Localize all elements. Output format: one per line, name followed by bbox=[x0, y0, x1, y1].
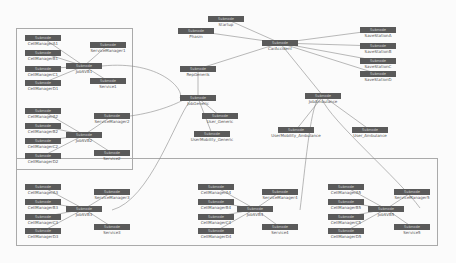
node-user_generic[interactable]: SubnodeUser_Generic bbox=[202, 113, 238, 124]
node-label: Startup bbox=[219, 22, 234, 27]
node-cm_c5[interactable]: SubnodeCellManagerC5 bbox=[328, 214, 364, 225]
node-label: User_Generic bbox=[207, 119, 234, 124]
node-label: CellManagerB4 bbox=[201, 205, 231, 210]
node-cm_a3[interactable]: SubnodeCellManagerA3 bbox=[25, 184, 61, 195]
node-jobgeneric[interactable]: SubnodeJobGeneric bbox=[180, 95, 216, 106]
node-cm_c2[interactable]: SubnodeCellManagerC2 bbox=[25, 138, 61, 149]
node-ss_b[interactable]: SubnodeSaveStationB bbox=[360, 43, 396, 54]
node-cm_a4[interactable]: SubnodeCellManagerA4 bbox=[198, 184, 234, 195]
node-cm_b5[interactable]: SubnodeCellManagerB5 bbox=[328, 199, 364, 210]
node-label: JobGeneric bbox=[187, 101, 209, 106]
node-label: CellManagerD5 bbox=[331, 234, 362, 239]
node-label: ServiceManager4 bbox=[263, 195, 298, 200]
node-label: UserMobility_Generic bbox=[191, 137, 233, 142]
node-user_amb[interactable]: SubnodeUser_Ambulance bbox=[352, 127, 388, 138]
node-service5[interactable]: SubnodeService5 bbox=[394, 224, 430, 235]
node-label: RepGenerik bbox=[186, 72, 209, 77]
node-cm_c1[interactable]: SubnodeCellManagerC1 bbox=[25, 66, 61, 77]
node-servmgr3[interactable]: SubnodeServiceManager3 bbox=[94, 189, 130, 200]
node-label: CellManagerA4 bbox=[201, 190, 231, 195]
node-ss_a[interactable]: SubnodeSaveStationA bbox=[360, 27, 396, 38]
node-label: CellManagerC5 bbox=[331, 220, 361, 225]
node-ss_d[interactable]: SubnodeSaveStationD bbox=[360, 71, 396, 82]
node-label: CellManagerA3 bbox=[28, 190, 58, 195]
node-servmgr2[interactable]: SubnodeServiceManager2 bbox=[94, 113, 130, 124]
node-jobsvb4[interactable]: SubnodeJobSVB4 bbox=[237, 206, 273, 217]
edge-curve bbox=[300, 99, 318, 210]
node-cm_a5[interactable]: SubnodeCellManagerA5 bbox=[328, 184, 364, 195]
node-label: CellManagerB5 bbox=[331, 205, 361, 210]
diagram-canvas: SubnodePhasmSubnodeStartupSubnodeCarAcci… bbox=[0, 0, 456, 263]
node-label: CellManagerA5 bbox=[331, 190, 361, 195]
node-label: CellManagerD4 bbox=[201, 234, 232, 239]
node-label: ServiceManager1 bbox=[91, 48, 126, 53]
node-cm_a2[interactable]: SubnodeCellManagerA2 bbox=[25, 108, 61, 119]
node-label: SaveStationB bbox=[365, 49, 392, 54]
node-label: JobSVB2 bbox=[76, 138, 93, 143]
node-cm_d2[interactable]: SubnodeCellManagerD2 bbox=[25, 153, 61, 164]
node-label: CellManagerB3 bbox=[28, 205, 58, 210]
node-label: CellManagerC1 bbox=[28, 72, 58, 77]
node-label: CellManagerD3 bbox=[28, 234, 59, 239]
node-jobsvb3[interactable]: SubnodeJobSVB3 bbox=[66, 206, 102, 217]
node-cm_d4[interactable]: SubnodeCellManagerD4 bbox=[198, 228, 234, 239]
node-label: CellManagerB2 bbox=[28, 129, 58, 134]
node-label: Service3 bbox=[103, 230, 120, 235]
node-usermob_amb[interactable]: SubnodeUserMobility_Ambulance bbox=[278, 127, 314, 138]
node-jobambulance[interactable]: SubnodeJobAmbulance bbox=[305, 93, 341, 104]
node-jobsvb1[interactable]: SubnodeJobSVB1 bbox=[66, 63, 102, 74]
node-cm_c4[interactable]: SubnodeCellManagerC4 bbox=[198, 214, 234, 225]
node-service3[interactable]: SubnodeService3 bbox=[94, 224, 130, 235]
node-cm_b4[interactable]: SubnodeCellManagerB4 bbox=[198, 199, 234, 210]
node-servmgr5[interactable]: SubnodeServiceManager5 bbox=[394, 189, 430, 200]
node-startup[interactable]: SubnodeStartup bbox=[208, 16, 244, 27]
node-label: ServiceManager2 bbox=[95, 119, 130, 124]
node-cm_b2[interactable]: SubnodeCellManagerB2 bbox=[25, 123, 61, 134]
edge-curve bbox=[130, 99, 185, 116]
node-cm_a1[interactable]: SubnodeCellManagerA1 bbox=[25, 35, 61, 46]
node-label: ServiceManager5 bbox=[395, 195, 430, 200]
node-label: CellManagerC3 bbox=[28, 220, 58, 225]
node-repgenerisch[interactable]: SubnodeRepGenerik bbox=[180, 66, 216, 77]
node-cm_d1[interactable]: SubnodeCellManagerD1 bbox=[25, 80, 61, 91]
node-label: ServiceManager3 bbox=[95, 195, 130, 200]
node-label: JobAmbulance bbox=[309, 99, 338, 104]
node-service1[interactable]: SubnodeService1 bbox=[90, 78, 126, 89]
node-label: Service5 bbox=[403, 230, 420, 235]
node-service4[interactable]: SubnodeService4 bbox=[262, 224, 298, 235]
node-cm_d3[interactable]: SubnodeCellManagerD3 bbox=[25, 228, 61, 239]
node-cm_c3[interactable]: SubnodeCellManagerC3 bbox=[25, 214, 61, 225]
node-servmgr1[interactable]: SubnodeServiceManager1 bbox=[90, 42, 126, 53]
node-label: User_Ambulance bbox=[353, 133, 387, 138]
node-label: JobSVB4 bbox=[247, 212, 264, 217]
node-label: Phasm bbox=[189, 34, 202, 39]
node-label: JobSVB5 bbox=[378, 212, 395, 217]
node-servmgr4[interactable]: SubnodeServiceManager4 bbox=[262, 189, 298, 200]
node-usermob_generic[interactable]: SubnodeUserMobility_Generic bbox=[194, 131, 230, 142]
node-label: CellManagerC2 bbox=[28, 144, 58, 149]
node-caraccident[interactable]: SubnodeCarAccident bbox=[262, 40, 298, 51]
node-jobsvb2[interactable]: SubnodeJobSVB2 bbox=[66, 132, 102, 143]
node-service2[interactable]: SubnodeService2 bbox=[94, 150, 130, 161]
node-label: Service1 bbox=[99, 84, 116, 89]
node-cm_b1[interactable]: SubnodeCellManagerB1 bbox=[25, 50, 61, 61]
node-label: SaveStationA bbox=[365, 33, 392, 38]
node-label: UserMobility_Ambulance bbox=[271, 133, 320, 138]
node-label: CellManagerB1 bbox=[28, 56, 58, 61]
node-label: CellManagerC4 bbox=[201, 220, 231, 225]
node-jobsvb5[interactable]: SubnodeJobSVB5 bbox=[368, 206, 404, 217]
node-label: Service2 bbox=[103, 156, 120, 161]
node-phasm[interactable]: SubnodePhasm bbox=[178, 28, 214, 39]
node-label: JobSVB1 bbox=[76, 69, 93, 74]
node-label: JobSVB3 bbox=[76, 212, 93, 217]
node-cm_d5[interactable]: SubnodeCellManagerD5 bbox=[328, 228, 364, 239]
node-label: SaveStationD bbox=[364, 77, 391, 82]
node-label: SaveStationC bbox=[365, 64, 392, 69]
node-label: CarAccident bbox=[268, 46, 292, 51]
node-ss_c[interactable]: SubnodeSaveStationC bbox=[360, 58, 396, 69]
node-label: CellManagerA1 bbox=[28, 41, 58, 46]
node-label: CellManagerD2 bbox=[28, 159, 59, 164]
node-label: CellManagerD1 bbox=[28, 86, 59, 91]
node-cm_b3[interactable]: SubnodeCellManagerB3 bbox=[25, 199, 61, 210]
node-label: Service4 bbox=[271, 230, 288, 235]
